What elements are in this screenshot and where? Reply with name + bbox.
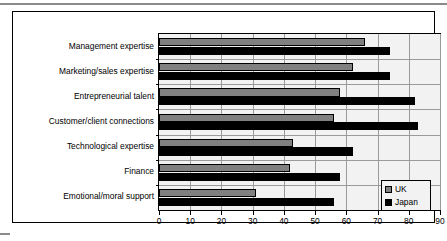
value-tick-label-8: 80 xyxy=(404,216,413,226)
legend-swatch-icon xyxy=(385,186,392,193)
category-label-0: Management expertise xyxy=(69,41,154,51)
bar-uk-4 xyxy=(159,139,293,147)
value-tick xyxy=(409,211,410,215)
value-tick-label-4: 40 xyxy=(279,216,288,226)
category-label-4: Technological expertise xyxy=(67,141,154,151)
category-label-6: Emotional/moral support xyxy=(63,191,154,201)
legend-item-uk[interactable]: UK xyxy=(385,183,427,196)
category-label-3: Customer/client connections xyxy=(49,116,154,126)
category-axis-labels: Management expertiseMarketing/sales expe… xyxy=(27,33,154,211)
bar-japan-6 xyxy=(159,198,334,206)
top-divider xyxy=(0,3,447,5)
bar-uk-5 xyxy=(159,164,290,172)
band-separator xyxy=(159,84,440,85)
category-tick xyxy=(156,160,159,161)
band-separator xyxy=(159,109,440,110)
category-tick xyxy=(156,84,159,85)
bar-japan-4 xyxy=(159,147,353,155)
bar-japan-1 xyxy=(159,72,390,80)
legend-item-japan[interactable]: Japan xyxy=(385,196,427,209)
band-separator xyxy=(159,59,440,60)
value-tick xyxy=(378,211,379,215)
value-tick xyxy=(284,211,285,215)
value-tick xyxy=(253,211,254,215)
bottom-divider xyxy=(0,233,10,235)
category-tick xyxy=(156,135,159,136)
value-tick xyxy=(315,211,316,215)
bar-japan-0 xyxy=(159,47,390,55)
bar-japan-5 xyxy=(159,173,340,181)
category-tick xyxy=(156,185,159,186)
category-tick xyxy=(156,109,159,110)
value-tick-label-5: 50 xyxy=(310,216,319,226)
value-tick-label-1: 10 xyxy=(186,216,195,226)
legend-label: Japan xyxy=(395,198,418,207)
bar-japan-2 xyxy=(159,97,415,105)
value-tick-label-7: 70 xyxy=(373,216,382,226)
category-label-2: Entrepreneurial talent xyxy=(74,91,154,101)
value-tick-label-2: 20 xyxy=(217,216,226,226)
legend-label: UK xyxy=(395,185,407,194)
value-tick xyxy=(159,211,160,215)
category-tick xyxy=(156,59,159,60)
value-tick xyxy=(221,211,222,215)
value-tick xyxy=(346,211,347,215)
value-tick-label-0: 0 xyxy=(157,216,162,226)
bar-uk-3 xyxy=(159,114,334,122)
chart-frame: Management expertiseMarketing/sales expe… xyxy=(12,11,435,223)
bar-japan-3 xyxy=(159,122,418,130)
value-tick-label-9: 90 xyxy=(435,216,444,226)
value-tick-label-6: 60 xyxy=(342,216,351,226)
category-label-5: Finance xyxy=(124,166,154,176)
value-tick xyxy=(190,211,191,215)
category-label-1: Marketing/sales expertise xyxy=(59,66,154,76)
legend-swatch-icon xyxy=(385,199,392,206)
bar-uk-6 xyxy=(159,189,256,197)
band-separator xyxy=(159,135,440,136)
band-separator xyxy=(159,160,440,161)
value-tick-label-3: 30 xyxy=(248,216,257,226)
bar-uk-1 xyxy=(159,63,353,71)
bar-uk-2 xyxy=(159,88,340,96)
chart-legend: UKJapan xyxy=(381,180,431,211)
gridline xyxy=(440,34,441,210)
value-tick xyxy=(440,211,441,215)
bar-uk-0 xyxy=(159,38,365,46)
value-axis: 0102030405060708090 xyxy=(158,211,441,233)
